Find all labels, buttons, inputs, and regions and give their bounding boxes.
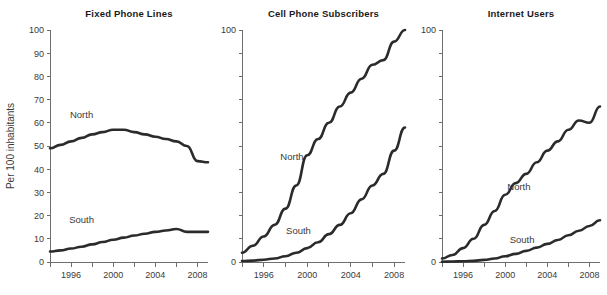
series-label-north: North — [507, 181, 530, 192]
chart-figure: Fixed Phone Lines01020304050607080901001… — [0, 0, 607, 295]
y-tick-label: 0 — [431, 257, 436, 267]
x-tick-label: 2000 — [495, 270, 515, 280]
x-tick-label: 2000 — [103, 270, 123, 280]
chart-panel-2: Cell Phone Subscribers010019962000200420… — [200, 0, 410, 295]
series-label-south: South — [286, 225, 311, 236]
panel-title: Internet Users — [488, 8, 555, 19]
y-tick-label: 0 — [39, 257, 44, 267]
series-label-north: North — [280, 151, 303, 162]
chart-svg-2: Cell Phone Subscribers010019962000200420… — [200, 0, 410, 295]
y-tick-label: 100 — [421, 25, 436, 35]
y-axis-title: Per 100 inhabitants — [5, 103, 16, 189]
y-tick-label: 40 — [34, 165, 44, 175]
panel-title: Cell Phone Subscribers — [268, 8, 379, 19]
y-tick-label: 50 — [34, 141, 44, 151]
chart-panel-3: Internet Users01001996200020042008NorthS… — [400, 0, 607, 295]
x-tick-label: 1996 — [453, 270, 473, 280]
y-tick-label: 80 — [34, 72, 44, 82]
series-line-north — [50, 130, 208, 162]
series-label-south: South — [510, 234, 535, 245]
y-tick-label: 100 — [221, 25, 236, 35]
y-tick-label: 0 — [231, 257, 236, 267]
y-tick-label: 60 — [34, 118, 44, 128]
x-tick-label: 2008 — [579, 270, 599, 280]
y-tick-label: 20 — [34, 211, 44, 221]
x-tick-label: 2004 — [145, 270, 165, 280]
x-tick-label: 1996 — [61, 270, 81, 280]
y-tick-label: 10 — [34, 234, 44, 244]
x-tick-label: 1996 — [254, 270, 274, 280]
x-tick-label: 2004 — [537, 270, 557, 280]
chart-svg-3: Internet Users01001996200020042008NorthS… — [400, 0, 607, 295]
y-tick-label: 70 — [34, 95, 44, 105]
series-line-south — [50, 229, 208, 252]
y-tick-label: 100 — [29, 25, 44, 35]
chart-panel-1: Fixed Phone Lines01020304050607080901001… — [0, 0, 215, 295]
y-tick-label: 90 — [34, 49, 44, 59]
y-tick-label: 30 — [34, 188, 44, 198]
series-label-north: North — [70, 109, 93, 120]
series-line-north — [242, 30, 405, 253]
series-label-south: South — [69, 214, 94, 225]
x-tick-label: 2004 — [341, 270, 361, 280]
x-tick-label: 2000 — [297, 270, 317, 280]
series-line-south — [242, 127, 405, 261]
chart-svg-1: Fixed Phone Lines01020304050607080901001… — [0, 0, 215, 295]
panel-title: Fixed Phone Lines — [85, 8, 172, 19]
